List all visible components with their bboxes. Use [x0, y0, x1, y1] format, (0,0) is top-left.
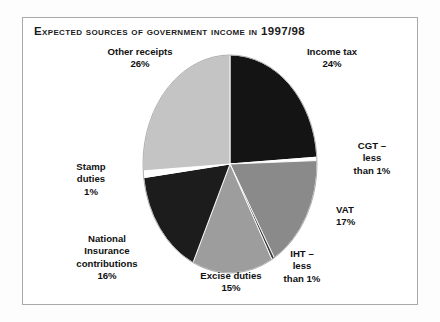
pie-slice-income-tax[interactable]	[230, 55, 317, 164]
pie-label-iht: IHT – less than 1%	[272, 248, 332, 285]
pie-slice-other-receipts[interactable]	[143, 55, 230, 171]
pie-label-excise-duties: Excise duties 15%	[183, 270, 279, 295]
figure-container: Expected sources of government income in…	[0, 0, 440, 322]
pie-label-income-tax: Income tax 24%	[286, 46, 378, 71]
pie-slice-group	[143, 55, 317, 273]
pie-label-stamp-duties: Stamp duties 1%	[55, 161, 127, 198]
pie-label-national-insurance: National Insurance contributions 16%	[52, 233, 162, 283]
pie-label-cgt: CGT – less than 1%	[336, 140, 408, 177]
pie-label-other-receipts: Other receipts 26%	[88, 46, 192, 71]
pie-label-vat: VAT 17%	[336, 204, 392, 229]
